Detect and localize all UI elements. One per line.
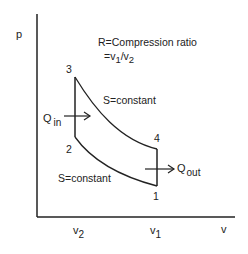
compression-ratio-formula: =v1/v2 — [104, 50, 134, 65]
heat-out-label: Qout — [177, 162, 201, 178]
heat-in-arrow — [64, 112, 90, 120]
point-4-label: 4 — [154, 132, 160, 144]
heat-in-label: Qin — [43, 112, 61, 128]
expansion-process-label: S=constant — [103, 94, 156, 106]
compression-process-label: S=constant — [58, 172, 111, 184]
x-tick-v2: v2 — [73, 224, 85, 240]
x-axis-label: v — [221, 223, 227, 235]
point-3-label: 3 — [66, 63, 72, 75]
point-1-label: 1 — [153, 190, 159, 202]
y-axis-label: p — [16, 28, 22, 40]
x-tick-v1: v1 — [150, 224, 162, 240]
pv-diagram: p v v2 v1 R=Compression ratio =v1/v2 3 2… — [0, 0, 248, 254]
process-3-4-isentropic — [75, 77, 157, 149]
compression-ratio-label: R=Compression ratio — [98, 36, 197, 48]
point-2-label: 2 — [66, 143, 72, 155]
heat-out-arrow — [145, 165, 174, 173]
